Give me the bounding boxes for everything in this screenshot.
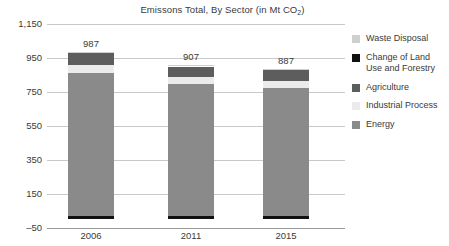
bar-segment-industrial-process xyxy=(263,81,309,88)
bar-value-label: 887 xyxy=(256,55,316,66)
bar-segment-energy xyxy=(168,84,214,216)
legend-item-label: Industrial Process xyxy=(366,100,447,112)
bar-value-label: 987 xyxy=(61,38,121,49)
legend-item-label: Energy xyxy=(366,119,447,131)
x-axis-tick-label: 2011 xyxy=(156,230,226,241)
legend-item[interactable]: Agriculture xyxy=(352,82,447,94)
y-axis-tick-label: –50 xyxy=(2,222,42,233)
bar-segment-change-of-land-use-and-forestry xyxy=(263,216,309,219)
y-axis-tick-label: 950 xyxy=(2,52,42,63)
bar-segment-energy xyxy=(68,73,114,216)
legend-item[interactable]: Waste Disposal xyxy=(352,33,447,45)
legend-item-label: Waste Disposal xyxy=(366,33,447,45)
legend-item-label: Agriculture xyxy=(366,82,447,94)
legend-item-label: Change of Land Use and Forestry xyxy=(366,52,447,75)
chart-legend: Waste DisposalChange of Land Use and For… xyxy=(352,33,447,137)
bar-segment-change-of-land-use-and-forestry xyxy=(68,216,114,220)
x-axis-tick-label: 2006 xyxy=(56,230,126,241)
x-axis-tick-label: 2015 xyxy=(251,230,321,241)
axis-baseline xyxy=(47,228,345,229)
legend-swatch-icon xyxy=(352,102,360,110)
legend-item[interactable]: Change of Land Use and Forestry xyxy=(352,52,447,75)
y-axis-tick-label: 350 xyxy=(2,154,42,165)
legend-swatch-icon xyxy=(352,35,360,43)
legend-swatch-icon xyxy=(352,121,360,129)
emissions-stacked-bar-chart: Emissons Total, By Sector (in Mt CO2) Wa… xyxy=(0,0,449,246)
chart-title-tail: ) xyxy=(301,4,304,15)
bar-segment-agriculture xyxy=(263,70,309,81)
legend-item[interactable]: Energy xyxy=(352,119,447,131)
y-axis-tick-label: 1,150 xyxy=(2,18,42,29)
bar-segment-agriculture xyxy=(68,53,114,65)
legend-swatch-icon xyxy=(352,84,360,92)
bar-segment-change-of-land-use-and-forestry xyxy=(168,216,214,219)
chart-title-subscript: 2 xyxy=(297,9,301,16)
y-axis-tick-label: 550 xyxy=(2,120,42,131)
bar-segment-agriculture xyxy=(168,67,214,78)
chart-title: Emissons Total, By Sector (in Mt CO2) xyxy=(100,4,345,15)
bar-segment-energy xyxy=(263,88,309,216)
y-axis-tick-label: 750 xyxy=(2,86,42,97)
chart-title-main: Emissons Total, By Sector (in Mt CO xyxy=(140,4,297,15)
bar-segment-industrial-process xyxy=(68,65,114,73)
legend-swatch-icon xyxy=(352,54,360,62)
bar-2006 xyxy=(68,24,114,228)
legend-item[interactable]: Industrial Process xyxy=(352,100,447,112)
bar-value-label: 907 xyxy=(161,51,221,62)
bar-segment-industrial-process xyxy=(168,77,214,84)
y-axis-tick-label: 150 xyxy=(2,188,42,199)
